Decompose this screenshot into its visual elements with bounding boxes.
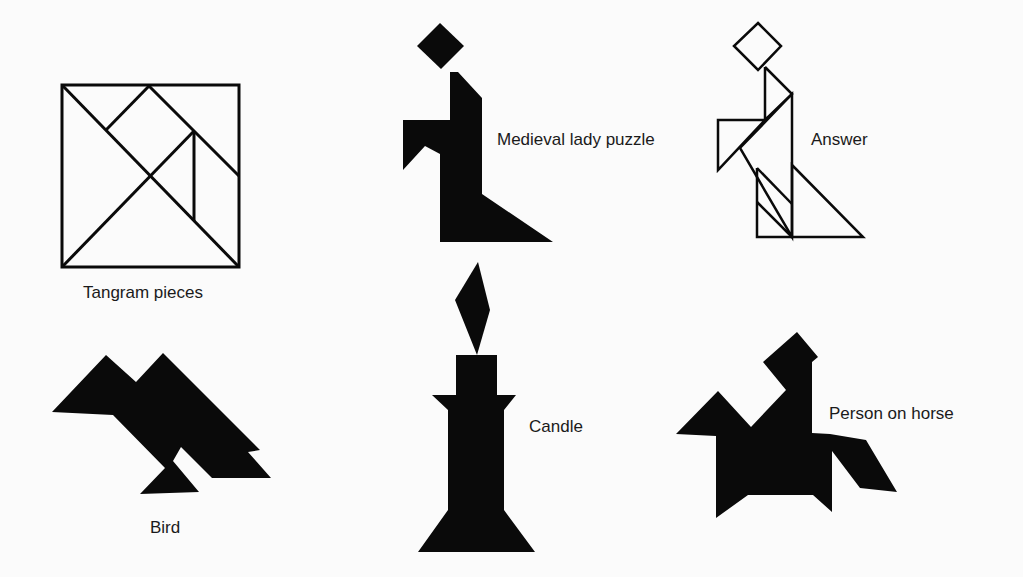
person-on-horse-label: Person on horse — [829, 404, 954, 424]
person-on-horse-silhouette — [676, 332, 897, 518]
candle-label: Candle — [529, 417, 583, 437]
bird-silhouette — [52, 353, 271, 494]
candle-silhouette — [418, 262, 535, 552]
tangram-pieces-diagram — [62, 85, 239, 267]
medieval-lady-label: Medieval lady puzzle — [497, 130, 655, 150]
bird-label: Bird — [150, 518, 180, 538]
answer-label: Answer — [811, 130, 868, 150]
tangram-pieces-label: Tangram pieces — [83, 283, 203, 303]
